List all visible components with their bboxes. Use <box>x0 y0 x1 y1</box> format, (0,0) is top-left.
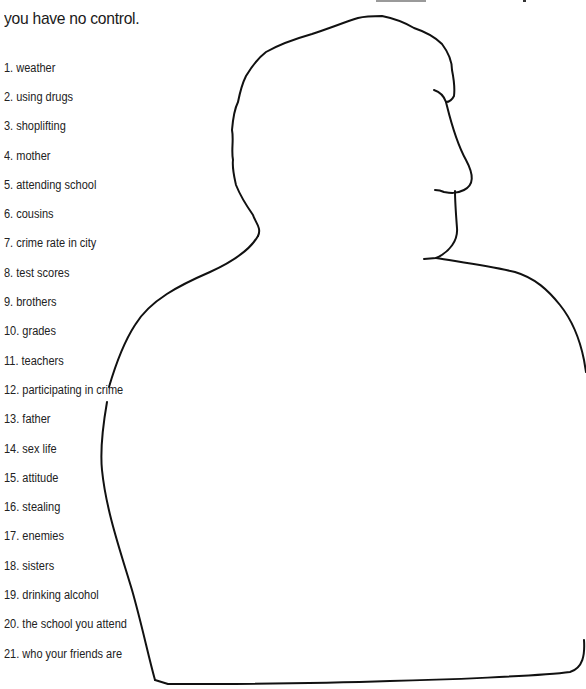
underlined-word-fragment <box>376 0 426 2</box>
list-item: 8. test scores <box>4 266 69 280</box>
instructions-line-2: you have no control. <box>4 9 287 29</box>
list-item: 19. drinking alcohol <box>4 588 99 602</box>
list-item: 12. participating in crime <box>4 383 123 397</box>
list-item: 1. weather <box>4 61 55 75</box>
instructions-line-1: only you have control and which items yo… <box>4 0 287 9</box>
list-item: 21. who your friends are <box>4 647 122 661</box>
list-item: 18. sisters <box>4 559 54 573</box>
list-item: 15. attitude <box>4 471 58 485</box>
list-item: 6. cousins <box>4 207 54 221</box>
list-item: 4. mother <box>4 149 50 163</box>
list-item: 7. crime rate in city <box>4 236 96 250</box>
list-item: 20. the school you attend <box>4 617 127 631</box>
list-item: 11. teachers <box>4 354 64 368</box>
list-item: 16. stealing <box>4 500 60 514</box>
list-item: 5. attending school <box>4 178 96 192</box>
list-item: 3. shoplifting <box>4 119 66 133</box>
instructions-text: only you have control and which items yo… <box>4 0 287 29</box>
list-item: 2. using drugs <box>4 90 73 104</box>
list-item: 10. grades <box>4 324 56 338</box>
list-item: 14. sex life <box>4 442 57 456</box>
head-silhouette-outline <box>0 0 586 689</box>
list-item: 17. enemies <box>4 529 64 543</box>
list-item: 13. father <box>4 412 50 426</box>
punctuation-fragment <box>523 0 526 2</box>
list-item: 9. brothers <box>4 295 57 309</box>
